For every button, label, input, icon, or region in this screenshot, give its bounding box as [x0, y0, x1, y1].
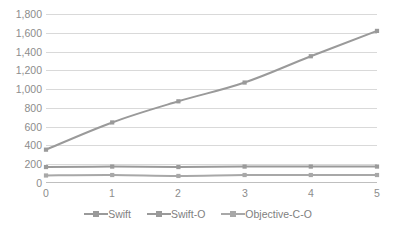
legend-swatch-objective-c-o-icon — [221, 209, 245, 219]
legend-item-objective-c-o[interactable]: Objective-C-O — [221, 209, 312, 220]
line-chart: 1,800 1,600 1,400 1,200 1,000 800 600 40… — [0, 0, 396, 231]
data-point-swift-5 — [375, 29, 379, 33]
x-axis-tick-2: 2 — [158, 188, 198, 199]
data-point-swift-3 — [243, 80, 247, 84]
x-axis-tick-1: 1 — [92, 188, 132, 199]
data-point-objective-c-o-0 — [44, 173, 48, 177]
data-point-swift-0 — [44, 148, 48, 152]
data-point-objective-c-o-3 — [243, 173, 247, 177]
legend-swatch-swift-icon — [84, 209, 108, 219]
data-point-swift-o-3 — [243, 164, 247, 168]
x-axis-tick-4: 4 — [291, 188, 331, 199]
data-point-swift-1 — [110, 120, 114, 124]
data-point-objective-c-o-1 — [110, 173, 114, 177]
x-axis-tick-3: 3 — [225, 188, 265, 199]
legend-swatch-swift-o-icon — [147, 209, 171, 219]
data-point-swift-o-0 — [44, 165, 48, 169]
data-point-objective-c-o-4 — [309, 173, 313, 177]
legend-item-swift[interactable]: Swift — [84, 209, 131, 220]
legend-item-swift-o[interactable]: Swift-O — [147, 209, 205, 220]
series-line-swift — [46, 31, 377, 150]
series-line-swift-o — [46, 167, 377, 168]
data-point-objective-c-o-5 — [375, 173, 379, 177]
data-point-swift-4 — [309, 54, 313, 58]
x-axis-tick-5: 5 — [357, 188, 396, 199]
data-point-swift-o-4 — [309, 164, 313, 168]
data-point-swift-o-2 — [176, 165, 180, 169]
data-point-swift-2 — [176, 99, 180, 103]
series-line-objective-c-o — [46, 175, 377, 176]
legend-label-swift-o: Swift-O — [171, 209, 205, 220]
data-point-objective-c-o-2 — [176, 174, 180, 178]
x-axis-tick-0: 0 — [26, 188, 66, 199]
data-point-swift-o-5 — [375, 164, 379, 168]
legend-label-swift: Swift — [108, 209, 131, 220]
legend-label-objective-c-o: Objective-C-O — [245, 209, 312, 220]
chart-legend: Swift Swift-O Objective-C-O — [0, 209, 396, 220]
data-point-swift-o-1 — [110, 164, 114, 168]
